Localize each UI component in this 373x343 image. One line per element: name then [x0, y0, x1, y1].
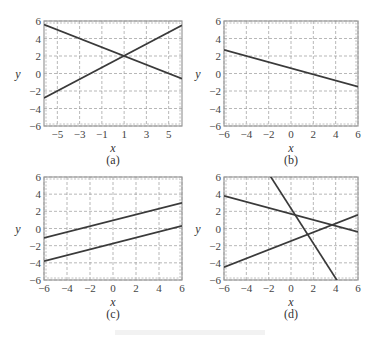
panel-label: (d) — [284, 307, 298, 321]
x-tick-label: 0 — [288, 282, 294, 294]
x-tick-label: 2 — [311, 282, 317, 294]
y-tick-label: −6 — [209, 120, 221, 132]
x-tick-label: −3 — [74, 128, 86, 140]
x-tick-label: −4 — [61, 282, 73, 294]
y-tick-label: 4 — [36, 188, 42, 200]
x-tick-label: 0 — [288, 128, 294, 140]
panel-label: (a) — [106, 153, 119, 167]
x-tick-label: −5 — [51, 128, 63, 140]
y-tick-label: −6 — [29, 120, 41, 132]
x-tick-label: 1 — [121, 128, 127, 140]
x-tick-label: −4 — [240, 128, 252, 140]
y-tick-label: −2 — [29, 85, 41, 97]
y-tick-label: −4 — [29, 103, 41, 115]
x-tick-label: 4 — [333, 282, 339, 294]
panel-a: −5−3−1135−6−4−20246xy(a) — [14, 15, 182, 167]
x-tick-label: 3 — [144, 128, 150, 140]
x-tick-label: −2 — [263, 128, 275, 140]
y-tick-label: 2 — [36, 50, 42, 62]
figure-caption-faded — [115, 330, 265, 335]
y-tick-label: −2 — [209, 85, 221, 97]
x-tick-label: 5 — [166, 128, 172, 140]
x-tick-label: 4 — [333, 128, 339, 140]
y-tick-label: 0 — [36, 223, 42, 235]
y-tick-label: 0 — [216, 68, 222, 80]
y-tick-label: 6 — [216, 171, 222, 183]
x-tick-label: 6 — [355, 128, 361, 140]
panel-label: (c) — [106, 307, 119, 321]
panel-b: −6−4−20246−6−4−20246xy(b) — [194, 15, 361, 167]
panel-c: −6−4−20246−6−4−20246xy(c) — [14, 171, 185, 321]
series-line-2 — [44, 25, 182, 98]
y-axis-label: y — [194, 67, 201, 81]
y-tick-label: −6 — [209, 274, 221, 286]
x-tick-label: 2 — [133, 282, 139, 294]
y-tick-label: 0 — [36, 68, 42, 80]
x-tick-label: −4 — [240, 282, 252, 294]
y-tick-label: −4 — [209, 103, 221, 115]
y-tick-label: 2 — [36, 205, 42, 217]
y-tick-label: −2 — [29, 240, 41, 252]
x-tick-label: 4 — [156, 282, 162, 294]
y-tick-label: −4 — [29, 257, 41, 269]
series-line-2 — [44, 226, 182, 261]
y-tick-label: 6 — [36, 171, 42, 183]
y-tick-label: 4 — [36, 33, 42, 45]
y-tick-label: 2 — [216, 205, 222, 217]
series-line-1 — [44, 25, 182, 79]
y-tick-label: 6 — [216, 15, 222, 27]
x-tick-label: 6 — [179, 282, 185, 294]
x-tick-label: 0 — [110, 282, 116, 294]
panel-label: (b) — [284, 153, 298, 167]
y-tick-label: 6 — [36, 15, 42, 27]
y-axis-label: y — [194, 222, 201, 236]
x-tick-label: −2 — [84, 282, 96, 294]
x-tick-label: −2 — [263, 282, 275, 294]
x-tick-label: 2 — [311, 128, 317, 140]
y-tick-label: 4 — [216, 33, 222, 45]
y-tick-label: 4 — [216, 188, 222, 200]
series-line-1 — [224, 196, 358, 232]
panel-d: −6−4−20246−6−4−20246xy(d) — [194, 171, 361, 321]
y-tick-label: 0 — [216, 223, 222, 235]
y-tick-label: −2 — [209, 240, 221, 252]
y-axis-label: y — [14, 222, 21, 236]
figure-four-panels: −5−3−1135−6−4−20246xy(a)−6−4−20246−6−4−2… — [0, 0, 373, 343]
x-tick-label: −1 — [96, 128, 108, 140]
y-tick-label: −4 — [209, 257, 221, 269]
y-tick-label: −6 — [29, 274, 41, 286]
y-tick-label: 2 — [216, 50, 222, 62]
x-tick-label: 6 — [355, 282, 361, 294]
y-axis-label: y — [14, 67, 21, 81]
